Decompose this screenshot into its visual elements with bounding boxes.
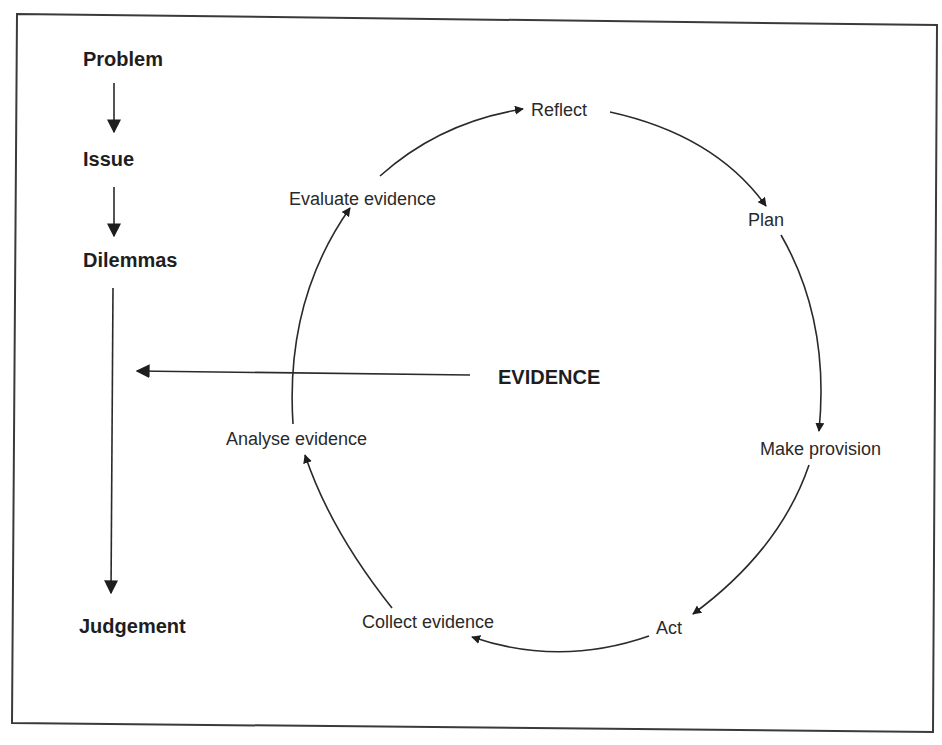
evidence-link: EVIDENCE [137, 366, 600, 388]
cycle-step-make-provision: Make provision [760, 439, 881, 459]
arrow-collect-to-analyse [305, 455, 392, 608]
cycle-step-act: Act [656, 618, 682, 638]
evidence-label: EVIDENCE [498, 366, 600, 388]
cycle-step-plan: Plan [748, 210, 784, 230]
arrow-evaluate-to-reflect [380, 109, 523, 176]
arrow-reflect-to-plan [610, 112, 766, 206]
cycle-step-evaluate-evidence: Evaluate evidence [289, 189, 436, 209]
cycle-step-reflect: Reflect [531, 100, 587, 120]
arrow-act-to-collect [472, 636, 649, 652]
arrow-provision-to-act [693, 465, 809, 614]
diagram-canvas: Problem Issue Dilemmas Judgement EVIDENC… [0, 0, 942, 745]
cycle-step-analyse-evidence: Analyse evidence [226, 429, 367, 449]
chain-step-judgement: Judgement [79, 615, 186, 637]
chain-step-dilemmas: Dilemmas [83, 249, 178, 271]
arrow-analyse-to-evaluate [292, 208, 350, 424]
evidence-arrow [137, 371, 470, 375]
chain-step-issue: Issue [83, 148, 134, 170]
chain-step-problem: Problem [83, 48, 163, 70]
arrow-plan-to-provision [781, 235, 821, 431]
process-chain: Problem Issue Dilemmas Judgement [79, 48, 186, 637]
cycle-step-collect-evidence: Collect evidence [362, 612, 494, 632]
arrow-dilemmas-to-judgement [111, 288, 113, 593]
